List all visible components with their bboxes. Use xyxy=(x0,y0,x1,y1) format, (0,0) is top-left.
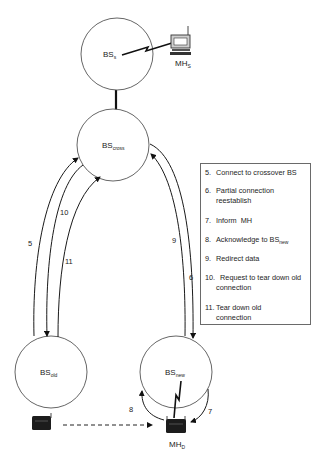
mh-d-label: MHD xyxy=(169,440,185,450)
mh-d-device-icon xyxy=(166,416,186,433)
mh-old-device-icon xyxy=(32,413,51,430)
legend-item-9: 9.Redirect data xyxy=(205,254,308,264)
arrow-9-label: 9 xyxy=(172,236,176,245)
mh-s-label: MHS xyxy=(175,59,191,69)
arrow-8-label: 8 xyxy=(129,405,133,414)
arrow-5 xyxy=(34,158,78,336)
arrow-5-label: 5 xyxy=(28,239,32,248)
legend-item-6: 6.Partial connection reestablish xyxy=(205,186,308,206)
legend-item-7: 7.Inform MH xyxy=(205,216,308,226)
arrow-11-label: 11 xyxy=(65,257,73,266)
arrow-6-label: 6 xyxy=(189,273,193,282)
legend-item-10: 10. Request to tear down old connection xyxy=(205,273,308,293)
node-bs-old: BSold xyxy=(15,336,87,408)
node-bs-s: BSs xyxy=(81,18,153,90)
legend-box: 5.Connect to crossover BS 6.Partial conn… xyxy=(200,163,311,325)
legend-item-11: 11.Tear down old connection xyxy=(205,303,308,323)
arrow-10-label: 10 xyxy=(60,208,68,217)
mh-s-computer-icon xyxy=(170,26,191,55)
node-bs-cross: BScross xyxy=(77,109,149,181)
legend-item-5: 5.Connect to crossover BS xyxy=(205,168,308,178)
arrow-7-label: 7 xyxy=(208,407,212,416)
legend-item-8: 8.Acknowledge to BSnew xyxy=(205,235,308,247)
arrow-9 xyxy=(151,154,185,336)
